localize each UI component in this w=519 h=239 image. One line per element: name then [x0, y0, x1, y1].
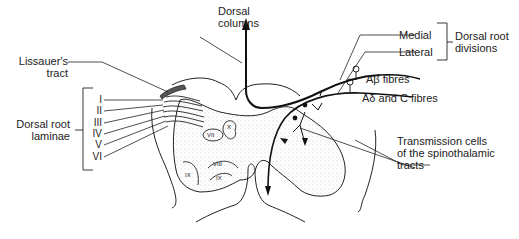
lamina-II: II — [84, 105, 102, 117]
dorsal-column-fibre — [246, 24, 380, 108]
lamina-VIII: VIII — [213, 161, 222, 167]
label-dorsal-root-divisions: Dorsal rootdivisions — [455, 30, 509, 54]
label-a-beta-fibres: Aβ fibres — [366, 73, 410, 85]
label-lateral: Lateral — [399, 46, 433, 58]
transmission-cell-1 — [303, 103, 308, 108]
lamina-IX-medial: IX — [216, 175, 222, 181]
descending-arrowhead — [265, 186, 271, 196]
grey-matter — [173, 99, 345, 196]
transmission-cell-2 — [293, 116, 298, 121]
lamina-X: X — [227, 124, 231, 130]
lamina-IX-lateral: IX — [185, 172, 191, 178]
diagram-drawing — [0, 0, 519, 239]
lamina-V: V — [84, 139, 102, 151]
label-a-delta-c-fibres: Aδ and C fibres — [362, 92, 438, 104]
label-dorsal-columns: Dorsalcolumns — [218, 5, 259, 29]
spinal-cord-diagram: Dorsalcolumns Lissauer'stract Dorsal roo… — [0, 0, 519, 239]
lamina-VI: VI — [84, 151, 102, 163]
label-transmission-cells: Transmission cellsof the spinothalamictr… — [397, 135, 495, 171]
label-dorsal-root-laminae: Dorsal rootlaminae — [6, 118, 70, 142]
label-medial: Medial — [399, 29, 431, 41]
label-lissauers-tract: Lissauer'stract — [10, 55, 68, 79]
lamina-VII: VII — [207, 132, 214, 138]
